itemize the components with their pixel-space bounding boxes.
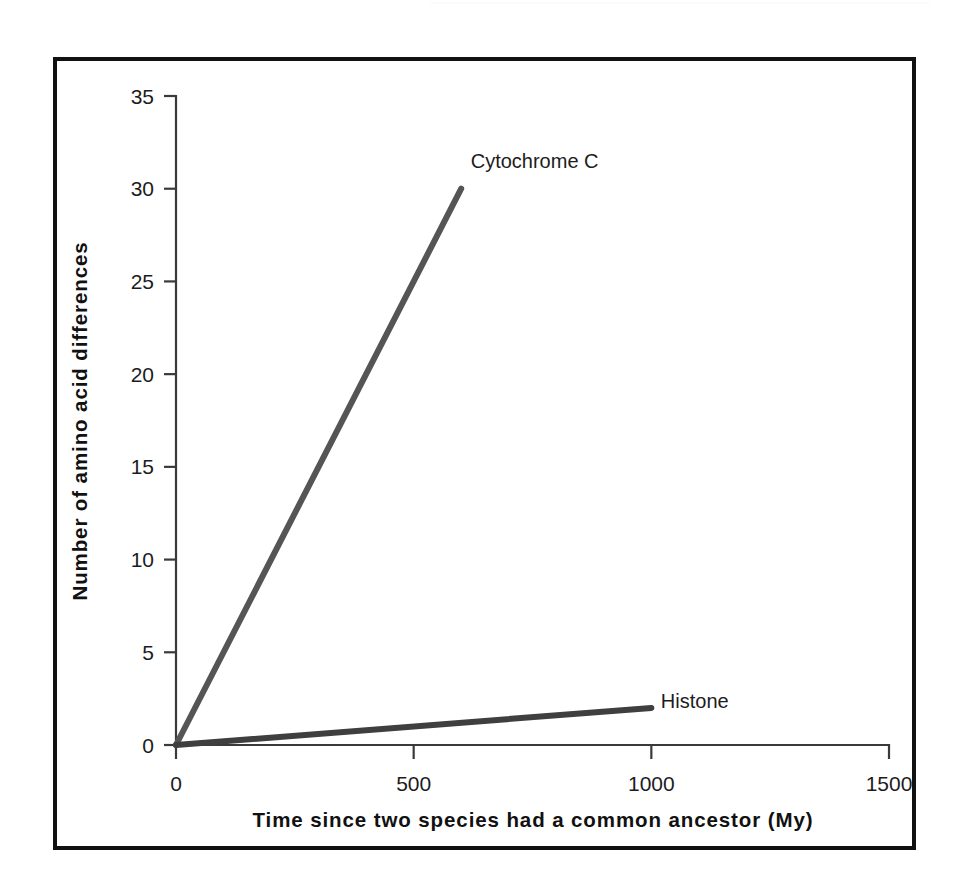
series-label-histone: Histone [661,690,729,712]
plot-area: 05101520253035 050010001500 Cytochrome C… [57,61,912,846]
series-group [176,189,651,745]
axes-group [176,96,889,745]
y-tick-label: 10 [131,548,154,571]
y-tick-label: 0 [142,734,154,757]
x-axis-ticks: 050010001500 [170,745,912,795]
x-axis-title: Time since two species had a common ance… [253,808,814,831]
y-axis-title: Number of amino acid differences [68,241,91,600]
y-tick-label: 30 [131,177,154,200]
series-line-cytochrome-c [176,189,461,745]
y-tick-label: 35 [131,85,154,108]
series-line-histone [176,708,651,745]
x-tick-label: 500 [396,772,431,795]
x-tick-label: 0 [170,772,182,795]
figure-frame: 05101520253035 050010001500 Cytochrome C… [53,57,916,850]
line-chart: 05101520253035 050010001500 Cytochrome C… [57,61,912,846]
y-axis-ticks: 05101520253035 [131,85,176,757]
series-label-cytochrome-c: Cytochrome C [471,150,599,172]
scan-edge-artifact [430,2,930,4]
y-tick-label: 25 [131,270,154,293]
x-tick-label: 1000 [628,772,675,795]
y-tick-label: 20 [131,363,154,386]
series-labels: Cytochrome CHistone [471,150,729,713]
y-tick-label: 5 [142,641,154,664]
x-tick-label: 1500 [866,772,912,795]
y-tick-label: 15 [131,455,154,478]
